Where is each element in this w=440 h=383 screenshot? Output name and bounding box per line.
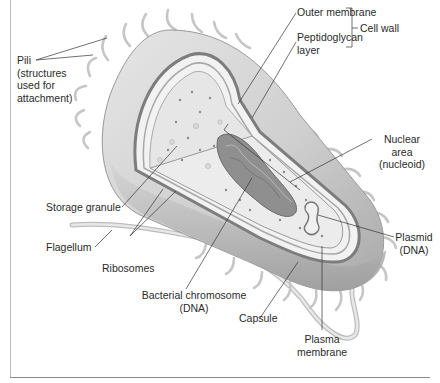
label-bacterial-chromosome: Bacterial chromosome (DNA) [124,289,264,314]
label-pili-line3: used for [17,79,72,92]
label-capsule: Capsule [239,312,278,325]
label-nuclear-area: Nuclear area (nucleoid) [372,133,432,171]
label-cell-wall: Cell wall [360,22,399,35]
label-bacterial-chromosome-line1: Bacterial chromosome [124,289,264,302]
label-flagellum: Flagellum [46,241,92,254]
label-plasmid-line2: (DNA) [390,244,438,257]
label-nuclear-area-line2: area [372,146,432,159]
label-outer-membrane: Outer membrane [297,6,376,19]
label-pili: Pili (structures used for attachment) [17,54,72,104]
label-ribosomes: Ribosomes [102,262,155,275]
label-plasmid: Plasmid (DNA) [390,231,438,256]
label-nuclear-area-line1: Nuclear [372,133,432,146]
label-pili-line2: (structures [17,67,72,80]
label-pili-line1: Pili [17,54,72,67]
label-peptidoglycan-layer: Peptidoglycan layer [297,31,363,56]
label-peptidoglycan-line1: Peptidoglycan [297,31,363,44]
label-peptidoglycan-line2: layer [297,44,363,57]
label-nuclear-area-line3: (nucleoid) [372,158,432,171]
label-plasma-membrane-line1: Plasma [294,333,350,346]
label-pili-line4: attachment) [17,92,72,105]
label-plasmid-line1: Plasmid [390,231,438,244]
label-plasma-membrane-line2: membrane [294,346,350,359]
label-storage-granule: Storage granule [46,201,121,214]
label-plasma-membrane: Plasma membrane [294,333,350,358]
